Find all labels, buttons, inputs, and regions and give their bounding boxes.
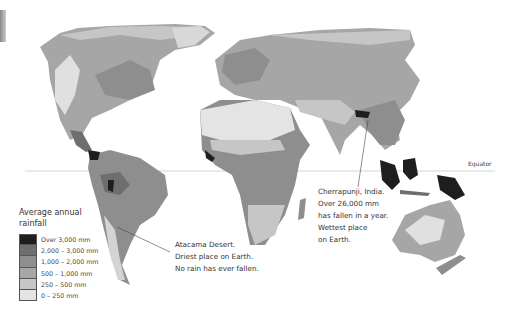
legend-swatch	[19, 268, 37, 279]
annotation-line: Wettest place	[318, 222, 388, 234]
atacama-annotation: Atacama Desert. Driest place on Earth. N…	[175, 239, 259, 275]
legend-title-line2: rainfall	[19, 218, 99, 229]
legend-swatch	[19, 234, 37, 245]
indonesia	[380, 158, 465, 200]
annotation-line: on Earth.	[318, 234, 388, 246]
legend-label: 500 – 1,000 mm	[41, 270, 92, 277]
legend-item: 1,000 – 2,000 mm	[19, 256, 99, 267]
legend-label: 1,000 – 2,000 mm	[41, 258, 98, 265]
legend-label: 250 – 500 mm	[41, 281, 86, 288]
north-america	[40, 24, 215, 152]
rainfall-legend: Average annual rainfall Over 3,000 mm 2,…	[19, 207, 99, 301]
australia	[392, 200, 466, 275]
legend-label: 0 – 250 mm	[41, 292, 78, 299]
legend-swatch	[19, 279, 37, 290]
legend-item: 0 – 250 mm	[19, 290, 99, 301]
legend-item: 500 – 1,000 mm	[19, 268, 99, 279]
legend-title: Average annual rainfall	[19, 207, 99, 229]
annotation-line: has fallen in a year.	[318, 210, 388, 222]
annotation-line: No rain has ever fallen.	[175, 263, 259, 275]
africa	[200, 100, 310, 245]
south-america	[88, 150, 168, 285]
equator-label: Equator	[468, 160, 492, 167]
legend-swatch	[19, 245, 37, 256]
annotation-line: Driest place on Earth.	[175, 251, 259, 263]
legend-item: 2,000 – 3,000 mm	[19, 245, 99, 256]
annotation-line: Cherrapunji, India.	[318, 186, 388, 198]
legend-title-line1: Average annual	[19, 207, 99, 218]
legend-swatch	[19, 256, 37, 267]
cherrapunji-leader-line	[358, 120, 368, 187]
cherrapunji-annotation: Cherrapunji, India. Over 26,000 mm has f…	[318, 186, 388, 246]
annotation-line: Atacama Desert.	[175, 239, 259, 251]
legend-item: 250 – 500 mm	[19, 279, 99, 290]
legend-swatch	[19, 290, 37, 301]
legend-label: Over 3,000 mm	[41, 236, 90, 243]
legend-item: Over 3,000 mm	[19, 234, 99, 245]
legend-label: 2,000 – 3,000 mm	[41, 247, 98, 254]
annotation-line: Over 26,000 mm	[318, 198, 388, 210]
